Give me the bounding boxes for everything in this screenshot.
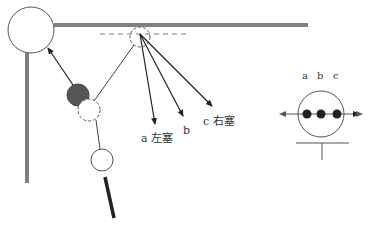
label-arrow-b: b bbox=[183, 124, 190, 137]
dot-b bbox=[317, 110, 326, 119]
label-arrow-a: a 左塞 bbox=[141, 131, 173, 145]
label-dot-a: a bbox=[302, 70, 308, 81]
black-rod bbox=[105, 177, 114, 218]
pivot-to-dashed-ball-line bbox=[94, 45, 134, 101]
left-arrowhead-icon bbox=[279, 111, 286, 117]
label-arrow-c: c 右塞 bbox=[203, 114, 235, 128]
arrow-to-large-circle bbox=[48, 48, 73, 85]
label-dot-c: c bbox=[333, 70, 339, 81]
label-dot-b: b bbox=[317, 70, 323, 81]
pendulum-string bbox=[96, 120, 100, 149]
dot-a bbox=[303, 110, 312, 119]
dashed-ball bbox=[78, 99, 100, 121]
large-circle bbox=[8, 7, 54, 53]
small-circle bbox=[91, 149, 113, 171]
dot-c bbox=[333, 110, 342, 119]
diagram-canvas: a 左塞 b c 右塞 a b c bbox=[0, 0, 370, 229]
right-arrowhead-icon bbox=[356, 111, 363, 117]
